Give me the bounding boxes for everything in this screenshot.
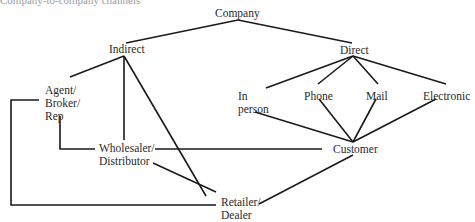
node-mail: Mail xyxy=(366,90,388,103)
node-agent-broker-rep: Agent/ Broker/ Rep xyxy=(45,84,80,123)
node-wholesaler-distributor: Wholesaler/ Distributor xyxy=(99,142,155,168)
node-indirect: Indirect xyxy=(109,43,145,56)
node-in-person: In person xyxy=(238,90,269,116)
node-direct: Direct xyxy=(340,44,369,57)
node-customer: Customer xyxy=(333,143,378,156)
node-phone: Phone xyxy=(304,90,333,103)
node-electronic: Electronic xyxy=(423,90,470,103)
node-retailer-dealer: Retailer/ Dealer xyxy=(221,196,261,222)
node-company: Company xyxy=(215,7,260,20)
